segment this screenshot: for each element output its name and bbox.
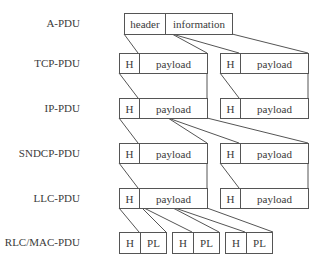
- ip-pdu-box-2: H payload: [220, 98, 309, 119]
- tcp-payload-1: payload: [139, 54, 207, 73]
- tcp-h-1: H: [120, 54, 139, 73]
- llc-payload-1: payload: [139, 189, 207, 208]
- sndcp-pdu-box-2: H payload: [220, 143, 309, 164]
- a-pdu-header: header: [125, 14, 165, 34]
- rlc-pl-3: PL: [246, 233, 272, 253]
- llc-payload-2: payload: [240, 189, 308, 208]
- rlc-h-1: H: [120, 233, 140, 253]
- llc-h-2: H: [221, 189, 240, 208]
- sndcp-h-1: H: [120, 144, 139, 163]
- rlc-h-2: H: [173, 233, 193, 253]
- rlc-mac-pdu-box-3: H PL: [225, 232, 273, 254]
- tcp-payload-2: payload: [240, 54, 308, 73]
- tcp-pdu-box-1: H payload: [119, 53, 208, 74]
- connector-lines: [0, 0, 321, 264]
- a-pdu-information: information: [165, 14, 232, 34]
- ip-payload-1: payload: [139, 99, 207, 118]
- ip-pdu-box-1: H payload: [119, 98, 208, 119]
- rlc-h-3: H: [226, 233, 246, 253]
- llc-pdu-box-1: H payload: [119, 188, 208, 209]
- sndcp-h-2: H: [221, 144, 240, 163]
- ip-payload-2: payload: [240, 99, 308, 118]
- rlc-pl-2: PL: [193, 233, 219, 253]
- sndcp-pdu-box-1: H payload: [119, 143, 208, 164]
- llc-h-1: H: [120, 189, 139, 208]
- llc-pdu-box-2: H payload: [220, 188, 309, 209]
- ip-h-1: H: [120, 99, 139, 118]
- sndcp-payload-1: payload: [139, 144, 207, 163]
- tcp-h-2: H: [221, 54, 240, 73]
- rlc-pl-1: PL: [140, 233, 166, 253]
- sndcp-payload-2: payload: [240, 144, 308, 163]
- rlc-mac-pdu-box-1: H PL: [119, 232, 167, 254]
- tcp-pdu-box-2: H payload: [220, 53, 309, 74]
- rlc-mac-pdu-box-2: H PL: [172, 232, 220, 254]
- ip-h-2: H: [221, 99, 240, 118]
- a-pdu-box: header information: [124, 13, 233, 35]
